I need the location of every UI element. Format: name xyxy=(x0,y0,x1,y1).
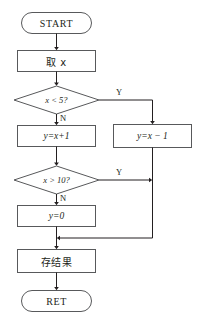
node-shape-get-x xyxy=(18,51,96,72)
node-shape-decision-1 xyxy=(14,86,99,114)
node-shape-decision-2 xyxy=(14,166,99,194)
node-shape-zero xyxy=(18,206,96,227)
node-shape-assign-plus xyxy=(18,126,96,147)
flowchart-canvas: START 取 x x < 5? y=x+1 y=x − 1 x > 10? y… xyxy=(0,0,204,326)
node-shape-ret xyxy=(22,291,92,312)
node-shape-store xyxy=(18,250,96,273)
edge-decision-1-yes-to-assign-minus xyxy=(99,100,153,123)
flowchart-graphics xyxy=(0,0,204,326)
node-shape-assign-minus xyxy=(114,125,192,148)
node-shape-start xyxy=(22,13,92,34)
